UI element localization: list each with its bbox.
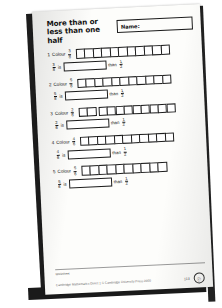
question-2-half-fraction: 12 [120, 89, 125, 99]
colour-cell[interactable] [158, 162, 168, 172]
question-4-answer-fraction: 46 [56, 150, 61, 160]
question-4-is-word: is [62, 152, 65, 157]
worksheet-header: More than or less than one half Name: [32, 4, 201, 46]
worksheet-sheet: More than or less than one half Name: 1C… [32, 4, 213, 295]
question-2-than-word: than [109, 91, 118, 96]
question-3-answer-fraction-denominator: 6 [55, 126, 57, 130]
question-3-fraction-denominator: 6 [71, 113, 73, 117]
question-2-cell-strip[interactable] [77, 74, 172, 88]
question-4-cell-strip[interactable] [80, 133, 175, 147]
question-1-half-fraction: 12 [118, 59, 123, 69]
question-2: 2Colour5858isthan12 [46, 73, 198, 102]
question-4: 4Colour4646isthan12 [49, 131, 201, 160]
question-5-answer-fraction-denominator: 6 [58, 184, 60, 188]
question-2-answer-fraction: 58 [53, 92, 58, 102]
question-5-is-word: is [63, 181, 66, 186]
question-3-cell-strip[interactable] [78, 103, 175, 117]
question-5-half-fraction-denominator: 2 [125, 181, 127, 185]
question-5-colour-word: Colour [57, 169, 71, 175]
question-2-half-fraction-denominator: 2 [121, 94, 123, 98]
question-3-fraction: 26 [70, 108, 75, 118]
question-2-is-word: is [59, 94, 62, 99]
colour-cell[interactable] [161, 45, 171, 55]
question-3-colour-word: Colour [55, 110, 69, 116]
name-field[interactable]: Name: [116, 16, 193, 33]
question-4-fraction-denominator: 6 [73, 142, 75, 146]
question-1-colour-word: Colour [52, 52, 66, 58]
question-1-fraction: 38 [67, 49, 72, 59]
colour-cell[interactable] [166, 103, 176, 113]
question-1: 1Colour3838isthan12 [45, 44, 197, 73]
question-1-fraction-denominator: 8 [69, 54, 71, 58]
question-5-cell-strip[interactable] [81, 162, 167, 175]
worksheet-content: More than or less than one half Name: 1C… [32, 4, 213, 295]
page-title: More than or less than one half [46, 17, 109, 45]
question-1-number: 1 [45, 53, 50, 58]
name-label: Name: [121, 22, 140, 29]
question-1-answer-fraction: 38 [51, 63, 56, 73]
question-2-answer-box[interactable] [64, 90, 107, 101]
footer-bottom-row: Cambridge Mathematics Direct 1 © Cambrid… [56, 272, 205, 290]
question-4-than-word: than [112, 150, 121, 155]
worksheet-photo-screen: More than or less than one half Name: 1C… [0, 0, 222, 308]
question-1-half-fraction-denominator: 2 [120, 64, 122, 68]
question-4-answer-fraction-denominator: 6 [57, 155, 59, 159]
question-1-than-word: than [108, 62, 117, 67]
question-1-answer-box[interactable] [63, 60, 106, 71]
question-4-fraction: 46 [71, 137, 76, 147]
question-5-number: 5 [50, 169, 55, 174]
question-5-half-fraction: 12 [124, 176, 129, 186]
colour-cell[interactable] [162, 74, 172, 84]
question-5: 5Colour5656isthan12 [50, 160, 202, 189]
question-2-colour-word: Colour [53, 81, 67, 87]
question-3-half-fraction-denominator: 2 [122, 123, 124, 127]
page-number: 113 [184, 276, 190, 280]
question-5-than-word: than [114, 179, 123, 184]
question-2-answer-fraction-denominator: 8 [54, 97, 56, 101]
question-4-half-fraction-denominator: 2 [124, 152, 126, 156]
question-3-than-word: than [111, 120, 120, 125]
copyright-badge-icon: ⓒ [193, 272, 205, 284]
question-4-number: 4 [49, 140, 54, 145]
question-3-is-word: is [61, 123, 64, 128]
question-2-fraction: 58 [69, 79, 74, 89]
question-4-colour-word: Colour [56, 140, 70, 146]
question-3-number: 3 [48, 111, 53, 116]
colour-cell[interactable] [87, 107, 97, 117]
question-3-answer-fraction: 26 [54, 121, 59, 131]
question-3-half-fraction: 12 [121, 118, 126, 128]
question-3: 3Colour2626isthan12 [48, 102, 200, 131]
footer-credit: Cambridge Mathematics Direct 1 © Cambrid… [56, 278, 151, 286]
question-5-fraction: 56 [73, 166, 78, 176]
question-2-fraction-denominator: 8 [70, 84, 72, 88]
question-1-cell-strip[interactable] [76, 45, 171, 59]
question-5-answer-fraction: 56 [57, 179, 62, 189]
questions-list: 1Colour3838isthan122Colour5858isthan123C… [34, 43, 208, 190]
question-5-answer-box[interactable] [68, 177, 111, 188]
question-1-answer-fraction-denominator: 8 [53, 68, 55, 72]
question-3-answer-box[interactable] [66, 119, 109, 130]
question-1-is-word: is [58, 64, 61, 69]
question-4-answer-box[interactable] [67, 148, 110, 159]
question-4-half-fraction: 12 [123, 147, 128, 157]
colour-cell[interactable] [165, 133, 175, 143]
question-2-number: 2 [46, 82, 51, 87]
footer-right-group: 113 ⓒ [184, 272, 205, 284]
question-5-fraction-denominator: 6 [74, 171, 76, 175]
